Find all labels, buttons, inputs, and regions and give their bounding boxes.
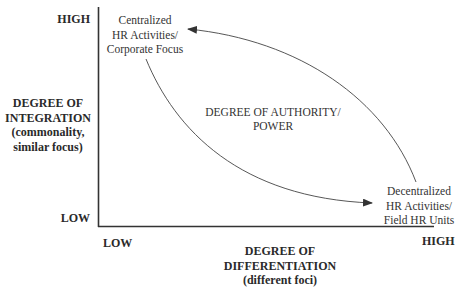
y-axis-title: DEGREE OF INTEGRATION (commonality, simi… xyxy=(0,96,96,154)
y-axis-title-line: INTEGRATION xyxy=(0,111,96,126)
node-line: HR Activities/ xyxy=(100,28,190,43)
x-axis-title: DEGREE OF DIFFERENTIATION (different foc… xyxy=(205,244,355,288)
y-axis-title-line: similar focus) xyxy=(0,140,96,155)
y-axis-title-line: DEGREE OF xyxy=(0,96,96,111)
x-axis-title-line: (different foci) xyxy=(205,273,355,288)
x-axis-high-label: HIGH xyxy=(422,234,455,249)
node-line: Decentralized xyxy=(374,184,463,199)
center-label-authority-power: DEGREE OF AUTHORITY/ POWER xyxy=(198,105,348,133)
node-decentralized: Decentralized HR Activities/ Field HR Un… xyxy=(374,184,463,228)
y-axis-title-line: (commonality, xyxy=(0,125,96,140)
x-axis-title-line: DIFFERENTIATION xyxy=(205,259,355,274)
node-line: Centralized xyxy=(100,13,190,28)
y-axis-high-label: HIGH xyxy=(40,12,90,27)
node-centralized: Centralized HR Activities/ Corporate Foc… xyxy=(100,13,190,57)
y-axis-low-label: LOW xyxy=(40,211,90,226)
node-line: Corporate Focus xyxy=(100,42,190,57)
x-axis-low-label: LOW xyxy=(103,236,132,251)
node-line: HR Activities/ xyxy=(374,199,463,214)
node-line: Field HR Units xyxy=(374,213,463,228)
center-label-line: DEGREE OF AUTHORITY/ xyxy=(198,105,348,119)
center-label-line: POWER xyxy=(198,119,348,133)
x-axis-title-line: DEGREE OF xyxy=(205,244,355,259)
